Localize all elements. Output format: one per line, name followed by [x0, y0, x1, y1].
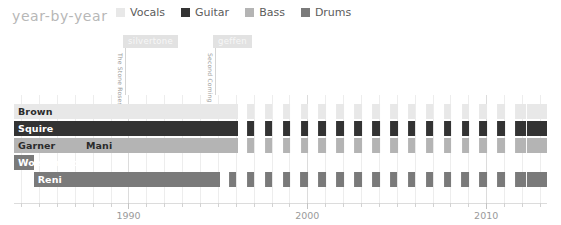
- legend-item-label: Drums: [315, 7, 351, 18]
- legend-item-label: Bass: [259, 7, 285, 18]
- annotation-leader-line: [125, 48, 126, 95]
- legend-item-bass[interactable]: Bass: [245, 7, 285, 18]
- bar-label: Reni: [34, 172, 62, 187]
- axis-tick-minor: [39, 203, 40, 207]
- bar-label: Brown: [14, 104, 53, 119]
- annotation-tag[interactable]: silvertone: [123, 35, 178, 48]
- axis-tick-minor: [236, 203, 237, 207]
- axis-tick-minor: [522, 203, 523, 207]
- chart-row-brown: Brown: [14, 104, 547, 119]
- bar-segment[interactable]: [527, 121, 547, 136]
- bar-segment-striped[interactable]: [238, 138, 528, 153]
- axis-tick-minor: [504, 203, 505, 207]
- legend-swatch-icon: [301, 8, 310, 17]
- bar-segment-striped[interactable]: [220, 172, 528, 187]
- annotation-geffen: geffen: [213, 30, 252, 48]
- legend-item-label: Vocals: [130, 7, 165, 18]
- x-axis: 199020002010: [14, 203, 547, 225]
- axis-tick-minor: [254, 203, 255, 207]
- legend: VocalsGuitarBassDrums: [116, 7, 351, 18]
- axis-tick-minor: [343, 203, 344, 207]
- bar-segment[interactable]: [527, 138, 547, 153]
- axis-tick-minor: [361, 203, 362, 207]
- annotation-leader-line: [215, 48, 216, 95]
- legend-item-guitar[interactable]: Guitar: [181, 7, 229, 18]
- bar-label: Garner: [14, 138, 55, 153]
- axis-tick-major: [128, 203, 129, 209]
- axis-tick-minor: [57, 203, 58, 207]
- chart-row-garner: GarnerMani: [14, 138, 547, 153]
- axis-tick-minor: [218, 203, 219, 207]
- legend-item-drums[interactable]: Drums: [301, 7, 351, 18]
- page-title: year-by-year: [12, 8, 108, 24]
- plot-area: BrownSquireGarnerManiWolstencroftReni: [14, 95, 547, 203]
- bar-label: Mani: [82, 138, 112, 153]
- legend-item-label: Guitar: [195, 7, 229, 18]
- axis-baseline: [14, 203, 547, 204]
- axis-tick-minor: [75, 203, 76, 207]
- legend-swatch-icon: [181, 8, 190, 17]
- bar-segment[interactable]: [527, 172, 547, 187]
- year-by-year-chart: year-by-year VocalsGuitarBassDrums silve…: [0, 0, 561, 225]
- annotation-silvertone: silvertone: [123, 30, 178, 48]
- axis-tick-minor: [182, 203, 183, 207]
- legend-swatch-icon: [116, 8, 125, 17]
- axis-tick-minor: [468, 203, 469, 207]
- axis-tick-minor: [21, 203, 22, 207]
- bar-segment-striped[interactable]: [238, 121, 528, 136]
- axis-tick-minor: [450, 203, 451, 207]
- axis-tick-minor: [93, 203, 94, 207]
- axis-tick-minor: [200, 203, 201, 207]
- legend-swatch-icon: [245, 8, 254, 17]
- axis-tick-major: [486, 203, 487, 209]
- axis-tick-label: 2000: [295, 210, 319, 221]
- axis-tick-minor: [272, 203, 273, 207]
- axis-tick-minor: [397, 203, 398, 207]
- axis-tick-label: 2010: [474, 210, 498, 221]
- axis-tick-minor: [415, 203, 416, 207]
- axis-tick-minor: [433, 203, 434, 207]
- axis-tick-minor: [289, 203, 290, 207]
- axis-tick-label: 1990: [116, 210, 140, 221]
- bar-segment[interactable]: [527, 104, 547, 119]
- annotation-tag[interactable]: geffen: [213, 35, 252, 48]
- axis-tick-minor: [540, 203, 541, 207]
- bar-label: Wolstencroft: [14, 155, 88, 170]
- axis-tick-minor: [164, 203, 165, 207]
- axis-tick-minor: [111, 203, 112, 207]
- axis-tick-major: [307, 203, 308, 209]
- chart-row-wolstencroft: Wolstencroft: [14, 155, 547, 170]
- chart-row-squire: Squire: [14, 121, 547, 136]
- legend-item-vocals[interactable]: Vocals: [116, 7, 165, 18]
- axis-tick-minor: [146, 203, 147, 207]
- bar-label: Squire: [14, 121, 53, 136]
- bar-segment-striped[interactable]: [238, 104, 528, 119]
- axis-tick-minor: [379, 203, 380, 207]
- chart-row-reni: Reni: [14, 172, 547, 187]
- axis-tick-minor: [325, 203, 326, 207]
